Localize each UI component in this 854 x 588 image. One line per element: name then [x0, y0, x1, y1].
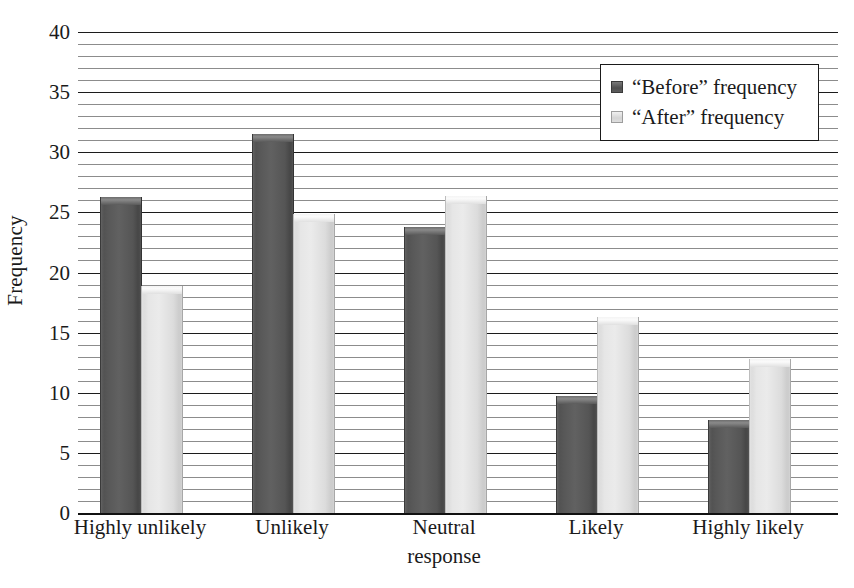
y-axis-tick-label: 0: [60, 503, 71, 524]
bar-after[interactable]: [445, 196, 487, 513]
y-axis-tick-label: 10: [49, 382, 70, 403]
bar-cap: [557, 396, 597, 404]
bar-cap: [598, 317, 638, 325]
y-axis-tick-label: 25: [49, 202, 70, 223]
bar-cap: [405, 227, 445, 235]
bar-chart: Frequency 0510152025303540 Highly unlike…: [0, 0, 854, 588]
bar-after[interactable]: [597, 317, 639, 513]
bar-before[interactable]: [708, 420, 750, 513]
bar-cap: [446, 196, 486, 204]
x-axis-tick-label: Likely: [569, 516, 624, 539]
legend-swatch-after-icon: [611, 111, 623, 123]
y-axis-tick-label: 35: [49, 82, 70, 103]
legend-label-before: “Before” frequency: [632, 77, 797, 98]
bar-after[interactable]: [293, 214, 335, 513]
x-axis-tick-label: Neutral: [413, 516, 476, 539]
legend-item-before[interactable]: “Before” frequency: [611, 72, 808, 102]
y-axis-tick-label: 30: [49, 142, 70, 163]
bar-before[interactable]: [404, 227, 446, 513]
x-axis-tick-labels: Highly unlikelyUnlikelyNeutralLikelyHigh…: [78, 516, 838, 546]
legend-item-after[interactable]: “After” frequency: [611, 102, 808, 132]
bar-cap: [294, 214, 334, 222]
x-axis-tick-label: Unlikely: [255, 516, 329, 539]
x-axis-tick-label: Highly unlikely: [74, 516, 206, 539]
legend-label-after: “After” frequency: [632, 107, 784, 128]
bar-before[interactable]: [252, 134, 294, 513]
bar-after[interactable]: [749, 359, 791, 513]
y-axis-tick-label: 5: [60, 442, 71, 463]
y-axis-title-text: Frequency: [3, 215, 28, 305]
bar-cap: [101, 197, 141, 205]
chart-legend: “Before” frequency “After” frequency: [600, 64, 819, 141]
y-axis-tick-label: 20: [49, 262, 70, 283]
x-axis-tick-label: Highly likely: [692, 516, 803, 539]
y-axis-tick-label: 40: [49, 22, 70, 43]
bar-cap: [142, 286, 182, 294]
y-axis-tick-label: 15: [49, 322, 70, 343]
bar-before[interactable]: [100, 197, 142, 513]
x-axis-title: response: [407, 544, 480, 569]
y-axis-tick-labels: 0510152025303540: [30, 32, 78, 513]
y-axis-title: Frequency: [0, 0, 30, 520]
bar-after[interactable]: [141, 286, 183, 513]
bar-cap: [750, 359, 790, 367]
legend-swatch-before-icon: [611, 81, 623, 93]
bar-before[interactable]: [556, 396, 598, 513]
bar-cap: [709, 420, 749, 428]
bar-cap: [253, 134, 293, 142]
